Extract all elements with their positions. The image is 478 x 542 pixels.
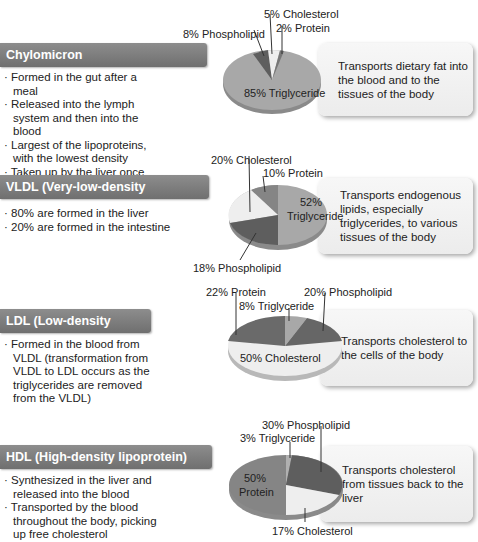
chylomicron-triglyceride-label: 85% Triglyceride xyxy=(244,87,325,99)
bullet: Formed in the blood from VLDL (transform… xyxy=(4,338,164,406)
vldl-triglyceride-pct-label: 52% xyxy=(300,196,322,208)
chylomicron-function-box: Transports dietary fat into the blood an… xyxy=(318,43,473,116)
vldl-bullets: 80% are formed in the liver 20% are form… xyxy=(4,207,214,234)
hdl-cholesterol-label: 17% Cholesterol xyxy=(272,525,353,537)
function-text: Transports cholesterol from tissues back… xyxy=(342,463,473,505)
function-text: Transports dietary fat into the blood an… xyxy=(338,59,473,101)
hdl-protein-pct-label: 50% xyxy=(244,472,266,484)
bullet: Released into the lymph system and then … xyxy=(4,98,164,139)
bullet: Largest of the lipoproteins, with the lo… xyxy=(4,139,164,166)
hdl-bullets: Synthesized in the liver and released in… xyxy=(4,474,164,542)
vldl-phospholipid-label: 18% Phospholipid xyxy=(193,262,281,274)
function-text: Transports cholesterol to the cells of t… xyxy=(341,334,473,362)
hdl-header: HDL (High-density lipoprotein) xyxy=(0,445,212,469)
bullet: Transported by the blood throughout the … xyxy=(4,501,164,542)
bullet: 80% are formed in the liver xyxy=(4,207,214,221)
hdl-phospholipid-label: 30% Phospholipid xyxy=(262,419,350,431)
vldl-protein-label: 10% Protein xyxy=(263,167,323,179)
vldl-cholesterol-label: 20% Cholesterol xyxy=(211,154,292,166)
ldl-bullets: Formed in the blood from VLDL (transform… xyxy=(4,338,164,406)
chylomicron-cholesterol-label: 5% Cholesterol xyxy=(264,8,339,20)
hdl-triglyceride-label: 3% Triglyceride xyxy=(240,432,315,444)
ldl-phospholipid-label: 20% Phospholipid xyxy=(304,286,392,298)
bullet: Formed in the gut after a meal xyxy=(4,71,164,98)
ldl-triglyceride-label: 8% Triglyceride xyxy=(239,300,314,312)
chylomicron-protein-label: 2% Protein xyxy=(276,22,330,34)
hdl-protein-label: Protein xyxy=(239,486,274,498)
ldl-pie xyxy=(227,313,343,388)
ldl-header: LDL (Low-density lipoprotein) xyxy=(0,309,151,333)
ldl-protein-label: 22% Protein xyxy=(206,286,266,298)
chylomicron-header: Chylomicron xyxy=(0,43,207,67)
bullet: 20% are formed in the intestine xyxy=(4,221,214,235)
vldl-header: VLDL (Very-low-density lipoprotein) xyxy=(0,175,209,199)
bullet: Synthesized in the liver and released in… xyxy=(4,474,164,501)
chylomicron-phospholipid-label: 8% Phospholipid xyxy=(183,28,265,40)
function-text: Transports endogenous lipids, especially… xyxy=(340,188,473,244)
vldl-triglyceride-label: Triglyceride xyxy=(287,210,343,222)
chylomicron-pie xyxy=(222,44,322,124)
ldl-cholesterol-label: 50% Cholesterol xyxy=(240,352,321,364)
